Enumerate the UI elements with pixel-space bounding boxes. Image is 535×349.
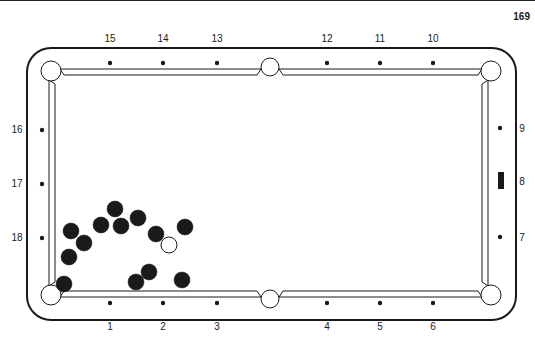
pocket-top-left — [41, 61, 61, 81]
object-ball — [93, 217, 109, 233]
diamond-marker-11 — [378, 61, 382, 65]
table-rails — [49, 69, 488, 297]
diamond-marker-1 — [108, 301, 112, 305]
pool-table-diagram: 123456789101112131415161718 — [0, 0, 535, 349]
object-ball — [177, 219, 193, 235]
table-pockets — [41, 58, 501, 308]
diamond-marker-2 — [161, 301, 165, 305]
object-ball — [130, 210, 146, 226]
diamond-marker-4 — [325, 301, 329, 305]
diamond-label-8: 8 — [519, 176, 525, 187]
pocket-top-middle — [261, 58, 279, 76]
pocket-top-right — [481, 61, 501, 81]
diamond-label-5: 5 — [377, 321, 383, 332]
object-ball — [56, 276, 72, 292]
diamond-marker-17 — [40, 182, 44, 186]
object-ball — [141, 264, 157, 280]
object-ball — [107, 201, 123, 217]
object-ball — [148, 226, 164, 242]
diamond-marker-9 — [498, 126, 502, 130]
diamond-label-16: 16 — [11, 124, 23, 135]
right-cushion — [482, 80, 488, 286]
diamond-marker-12 — [325, 61, 329, 65]
bottom-cushion — [279, 291, 482, 297]
diamond-marker-10 — [431, 61, 435, 65]
object-ball — [63, 223, 79, 239]
diamond-label-3: 3 — [214, 321, 220, 332]
diamond-label-4: 4 — [324, 321, 330, 332]
diamond-label-7: 7 — [519, 232, 525, 243]
bottom-cushion — [60, 291, 261, 297]
diamond-markers — [40, 61, 504, 305]
diamond-marker-6 — [431, 301, 435, 305]
clipped-caption-line — [0, 343, 535, 349]
diamond-labels: 123456789101112131415161718 — [11, 33, 525, 332]
diamond-label-13: 13 — [211, 33, 223, 44]
diamond-marker-5 — [378, 301, 382, 305]
pocket-bottom-middle — [261, 290, 279, 308]
table-outer-edge — [27, 48, 516, 320]
diamond-marker-16 — [40, 128, 44, 132]
diamond-label-2: 2 — [160, 321, 166, 332]
diamond-label-15: 15 — [104, 33, 116, 44]
diamond-label-14: 14 — [157, 33, 169, 44]
diamond-label-9: 9 — [519, 123, 525, 134]
diamond-marker-18 — [40, 236, 44, 240]
object-ball — [113, 218, 129, 234]
cue-ball — [161, 237, 177, 253]
top-cushion — [60, 69, 261, 75]
diamond-label-11: 11 — [375, 33, 386, 44]
object-ball — [174, 272, 190, 288]
diamond-marker-8-bar — [498, 172, 504, 189]
object-ball — [128, 274, 144, 290]
table-frame — [27, 48, 516, 320]
diamond-marker-14 — [161, 61, 165, 65]
pocket-bottom-right — [481, 285, 501, 305]
diamond-label-1: 1 — [107, 321, 113, 332]
ball-layout — [56, 201, 193, 292]
diamond-label-12: 12 — [321, 33, 333, 44]
diamond-label-17: 17 — [11, 178, 23, 189]
diamond-label-6: 6 — [430, 321, 436, 332]
top-cushion — [279, 69, 482, 75]
object-ball — [76, 235, 92, 251]
diamond-marker-7 — [498, 235, 502, 239]
diamond-label-10: 10 — [427, 33, 439, 44]
diamond-marker-13 — [215, 61, 219, 65]
object-ball — [61, 249, 77, 265]
diamond-marker-3 — [215, 301, 219, 305]
diamond-label-18: 18 — [11, 232, 23, 243]
diamond-marker-15 — [108, 61, 112, 65]
left-cushion — [49, 80, 55, 286]
